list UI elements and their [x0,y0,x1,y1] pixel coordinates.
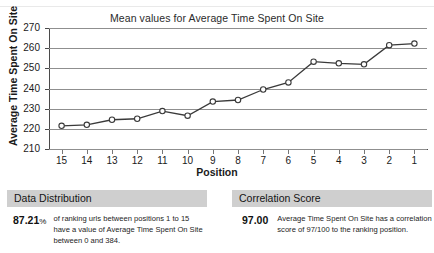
y-tick-label: 250 [6,62,40,73]
panel-correlation-score: Correlation Score 97.00 Average Time Spe… [232,190,432,236]
x-tick-mark [188,150,189,154]
correlation-score-value: 97.00 [242,214,268,226]
x-tick-mark [364,150,365,154]
x-tick-mark [263,150,264,154]
top-divider [0,6,434,7]
y-tick-label: 230 [6,103,40,114]
x-tick-mark [112,150,113,154]
panel-data-distribution: Data Distribution 87.21% of ranking urls… [7,190,207,246]
data-point-marker [84,122,89,127]
y-tick-label: 240 [6,83,40,94]
x-tick-label: 15 [52,155,72,166]
y-tick-label: 260 [6,42,40,53]
data-point-marker [210,99,215,104]
chart-container: Mean values for Average Time Spent On Si… [0,8,434,183]
x-tick-label: 6 [278,155,298,166]
gridline [49,149,427,150]
x-axis-label: Position [0,166,434,178]
x-tick-label: 9 [203,155,223,166]
x-tick-mark [339,150,340,154]
correlation-score-figure: 97.00 [232,214,268,236]
x-tick-label: 13 [102,155,122,166]
x-tick-mark [213,150,214,154]
x-tick-mark [87,150,88,154]
data-point-marker [336,61,341,66]
data-point-marker [185,113,190,118]
x-tick-label: 10 [178,155,198,166]
y-tick-label: 270 [6,22,40,33]
data-distribution-unit: % [39,217,46,226]
y-tick-label: 220 [6,123,40,134]
x-tick-label: 14 [77,155,97,166]
x-tick-mark [162,150,163,154]
x-tick-label: 11 [152,155,172,166]
data-point-marker [286,80,291,85]
x-tick-mark [238,150,239,154]
x-tick-mark [137,150,138,154]
x-tick-mark [314,150,315,154]
data-point-marker [361,62,366,67]
data-distribution-figure: 87.21% [7,214,46,246]
chart-title: Mean values for Average Time Spent On Si… [0,12,434,24]
data-point-marker [261,87,266,92]
x-tick-mark [389,150,390,154]
x-tick-label: 8 [228,155,248,166]
x-tick-label: 2 [379,155,399,166]
data-point-marker [311,59,316,64]
x-tick-label: 7 [253,155,273,166]
panel-body-data-distribution: 87.21% of ranking urls between positions… [7,207,207,246]
plot-area [49,28,427,149]
data-point-marker [160,108,165,113]
x-tick-mark [414,150,415,154]
data-distribution-text: of ranking urls between positions 1 to 1… [46,214,207,246]
data-point-marker [235,97,240,102]
x-tick-label: 1 [404,155,424,166]
series-polyline [62,44,415,126]
data-point-marker [59,123,64,128]
y-tick-label: 210 [6,143,40,154]
data-distribution-value: 87.21 [13,214,39,226]
report-panel: Mean values for Average Time Spent On Si… [0,0,434,253]
data-point-marker [412,41,417,46]
data-point-marker [387,42,392,47]
panel-body-correlation-score: 97.00 Average Time Spent On Site has a c… [232,207,432,236]
x-tick-label: 5 [304,155,324,166]
x-tick-label: 12 [127,155,147,166]
x-tick-label: 3 [354,155,374,166]
x-tick-mark [62,150,63,154]
data-point-marker [135,116,140,121]
correlation-score-text: Average Time Spent On Site has a correla… [268,214,432,236]
panel-header-data-distribution: Data Distribution [7,190,207,207]
data-point-marker [109,117,114,122]
series-line [49,28,427,149]
x-tick-mark [288,150,289,154]
panel-header-correlation-score: Correlation Score [232,190,432,207]
x-tick-label: 4 [329,155,349,166]
summary-panels: Data Distribution 87.21% of ranking urls… [0,190,434,253]
